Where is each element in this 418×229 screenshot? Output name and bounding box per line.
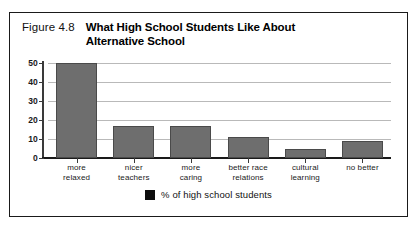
bar[interactable] <box>342 141 383 158</box>
x-axis-label-line: better race <box>220 163 277 173</box>
x-axis-label-line: cultural <box>277 163 334 173</box>
legend-swatch-icon <box>145 190 155 200</box>
y-axis-tick-label: 30 <box>28 96 38 106</box>
x-axis-label-line: no better <box>334 163 391 173</box>
y-axis-tick-mark <box>39 101 44 102</box>
page-title: What High School Students Like About Alt… <box>86 21 341 48</box>
chart-legend: % of high school students <box>10 189 407 200</box>
bar[interactable] <box>228 137 269 158</box>
y-axis-tick-mark <box>39 63 44 64</box>
bar-slot <box>334 63 391 158</box>
bar-slot <box>48 63 105 158</box>
bar-slot <box>105 63 162 158</box>
bar[interactable] <box>285 149 326 159</box>
bar[interactable] <box>170 126 211 158</box>
y-axis-tick-mark <box>39 120 44 121</box>
x-axis-label: no better <box>334 163 391 182</box>
x-axis-label-line: more <box>48 163 105 173</box>
bar-series <box>48 63 391 158</box>
x-axis-label: culturallearning <box>277 163 334 182</box>
y-axis-tick-mark <box>39 158 44 159</box>
y-axis-tick-label: 10 <box>28 134 38 144</box>
chart-plot-area: 01020304050 <box>48 63 391 158</box>
x-axis-label-line: relaxed <box>48 173 105 183</box>
chart-grid: 01020304050 <box>48 63 391 158</box>
x-axis-label-line: teachers <box>105 173 162 183</box>
legend-label: % of high school students <box>161 189 272 200</box>
figure-number: Figure 4.8 <box>22 21 75 33</box>
x-axis-label-line: nicer <box>105 163 162 173</box>
bar-slot <box>162 63 219 158</box>
x-axis-label-line: learning <box>277 173 334 183</box>
x-axis-label-line: caring <box>162 173 219 183</box>
y-axis-tick-label: 40 <box>28 77 38 87</box>
x-axis-label: morerelaxed <box>48 163 105 182</box>
x-axis-label: nicerteachers <box>105 163 162 182</box>
y-axis-tick-label: 20 <box>28 115 38 125</box>
y-axis-tick-mark <box>39 139 44 140</box>
bar[interactable] <box>113 126 154 158</box>
x-axis-label-line: more <box>162 163 219 173</box>
y-axis-tick-label: 50 <box>28 58 38 68</box>
bar[interactable] <box>56 63 97 158</box>
x-axis-label: morecaring <box>162 163 219 182</box>
y-axis-tick-mark <box>39 82 44 83</box>
x-axis-label-line: relations <box>220 173 277 183</box>
x-axis-labels: morerelaxednicerteachersmorecaringbetter… <box>48 163 391 182</box>
bar-slot <box>277 63 334 158</box>
figure-frame: Figure 4.8 What High School Students Lik… <box>9 12 408 217</box>
x-axis-label: better racerelations <box>220 163 277 182</box>
figure-title-row: Figure 4.8 What High School Students Lik… <box>22 21 397 48</box>
y-axis-line <box>42 61 44 159</box>
y-axis-tick-label: 0 <box>33 153 38 163</box>
bar-slot <box>220 63 277 158</box>
